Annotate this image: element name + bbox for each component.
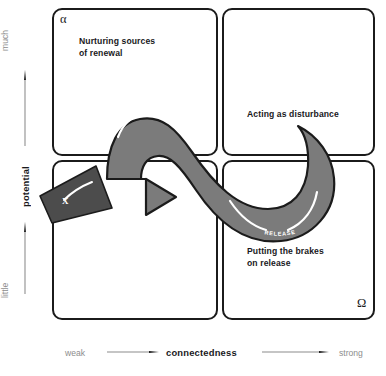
omega-phase-marker: Ω <box>357 297 366 310</box>
quadrant-top-left <box>52 8 218 156</box>
quadrant-top-right <box>222 8 375 156</box>
caption-nurturing-sources-of-renewal: Nurturing sources of renewal <box>79 35 155 59</box>
quadrant-bottom-right <box>222 160 375 320</box>
potential-axis: much potential little <box>0 0 50 332</box>
x-axis-title: connectedness <box>166 347 237 358</box>
y-axis-title: potential <box>0 158 50 216</box>
caption-acting-as-disturbance: Acting as disturbance <box>247 108 339 120</box>
y-axis-low-label: little <box>0 268 50 312</box>
x-axis-left-arrow-icon <box>107 351 159 353</box>
y-axis-high-label: much <box>0 18 50 62</box>
quadrant-bottom-left <box>52 160 218 320</box>
diagram-canvas: α Ω Nurturing sources of renewal Acting … <box>0 0 386 376</box>
x-axis-low-label: weak <box>65 348 85 358</box>
x-axis-high-label: strong <box>339 348 363 358</box>
alpha-phase-marker: α <box>60 13 67 26</box>
x-axis-right-arrow-icon <box>262 351 329 353</box>
y-axis-upper-arrow-icon <box>24 70 26 146</box>
connectedness-axis: weak connectedness strong <box>0 344 386 368</box>
caption-putting-the-brakes-on-release: Putting the brakes on release <box>247 245 324 269</box>
